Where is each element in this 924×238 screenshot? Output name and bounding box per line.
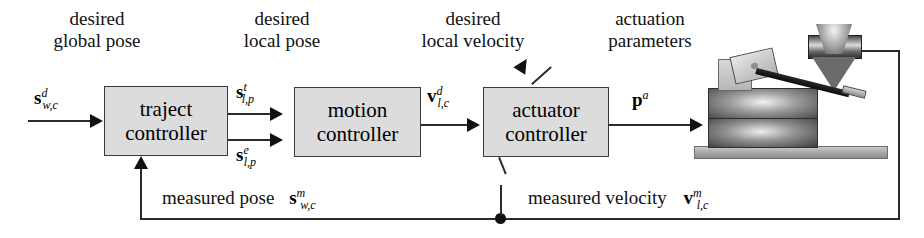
signal-label-actuation-parameters: pa bbox=[632, 88, 649, 111]
annotation-line-2: global pose bbox=[22, 30, 172, 52]
feedback-label-measured-velocity: measured velocity vml,c bbox=[528, 186, 708, 213]
feedback-text: measured velocity bbox=[528, 187, 667, 208]
signal-label-desired-local-velocity: vdl,c bbox=[427, 84, 449, 111]
annotation-desired-global-pose: desired global pose bbox=[22, 8, 172, 52]
signal-subscript: l,p bbox=[242, 92, 254, 106]
block-label-line-2: controller bbox=[317, 122, 399, 146]
positioning-stage-upper bbox=[708, 88, 818, 119]
signal-subscript: l,c bbox=[438, 96, 450, 110]
pointer-line bbox=[531, 66, 551, 85]
actuator-feedback-tap bbox=[500, 157, 522, 215]
traject-to-motion-line-top bbox=[228, 113, 272, 115]
feedback-symbol: s bbox=[289, 187, 296, 208]
signal-subscript: w,c bbox=[42, 98, 57, 112]
pointer-arrow-head bbox=[513, 55, 532, 74]
block-label-line-1: motion bbox=[328, 98, 388, 122]
tap-segment-upper bbox=[499, 157, 507, 174]
block-label-line-1: traject bbox=[140, 97, 192, 121]
input-arrow-line bbox=[28, 120, 92, 122]
signal-superscript: a bbox=[643, 88, 649, 102]
control-block-diagram: desired global pose desired local pose d… bbox=[0, 0, 924, 238]
block-label-line-2: controller bbox=[125, 121, 207, 145]
signal-symbol: v bbox=[427, 85, 437, 106]
actuation-parameters-pointer bbox=[519, 62, 553, 90]
block-label-line-1: actuator bbox=[512, 98, 580, 122]
actuator-to-mechanism-line bbox=[609, 124, 693, 126]
sample-chip bbox=[729, 47, 778, 84]
feedback-bus-line bbox=[140, 218, 900, 220]
signal-symbol: p bbox=[632, 89, 643, 110]
feedback-subscript: l,c bbox=[697, 198, 709, 212]
feedback-symbol-group: smw,c bbox=[289, 187, 316, 208]
signal-label-desired-global-pose: sdw,c bbox=[34, 86, 58, 113]
positioning-stage-lower bbox=[708, 116, 818, 148]
cantilever-probe-tip bbox=[841, 85, 866, 99]
block-motion-controller[interactable]: motion controller bbox=[294, 87, 421, 157]
signal-label-error-local-pose: sel,p bbox=[236, 143, 256, 170]
block-traject-controller[interactable]: traject controller bbox=[104, 86, 228, 156]
feedback-text: measured pose bbox=[162, 187, 274, 208]
annotation-desired-local-velocity: desired local velocity bbox=[389, 8, 557, 52]
annotation-line-1: desired bbox=[207, 8, 357, 30]
microassembly-setup-illustration bbox=[694, 24, 900, 174]
traject-to-motion-line-bottom bbox=[228, 139, 272, 141]
feedback-label-measured-pose: measured pose smw,c bbox=[162, 186, 316, 213]
input-arrow-head bbox=[90, 114, 103, 128]
signal-subscript: l,p bbox=[244, 155, 256, 169]
block-actuator-controller[interactable]: actuator controller bbox=[483, 87, 609, 157]
annotation-line-2: local pose bbox=[207, 30, 357, 52]
feedback-symbol-group: vml,c bbox=[684, 187, 709, 208]
annotation-line-1: desired bbox=[22, 8, 172, 30]
motion-to-actuator-line bbox=[421, 124, 469, 126]
feedback-symbol: v bbox=[684, 187, 694, 208]
traject-to-motion-arrow-bottom bbox=[270, 133, 283, 147]
traject-to-motion-arrow-top bbox=[270, 107, 283, 121]
annotation-desired-local-pose: desired local pose bbox=[207, 8, 357, 52]
signal-label-target-local-pose: stl,p bbox=[236, 80, 254, 107]
annotation-line-1: desired bbox=[389, 8, 557, 30]
feedback-subscript: w,c bbox=[300, 198, 315, 212]
annotation-line-2: local velocity bbox=[389, 30, 557, 52]
block-label-line-2: controller bbox=[505, 122, 587, 146]
motion-to-actuator-arrow bbox=[467, 118, 480, 132]
feedback-left-riser bbox=[140, 166, 142, 219]
feedback-into-traject-arrow bbox=[134, 156, 148, 169]
tap-segment-lower bbox=[500, 185, 502, 215]
